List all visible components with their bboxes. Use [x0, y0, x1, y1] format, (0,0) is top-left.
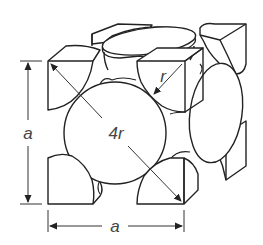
- label-a-horizontal: a: [110, 217, 119, 236]
- label-4r: 4r: [108, 124, 124, 143]
- label-a-vertical: a: [23, 124, 32, 143]
- vertical-dimension: a: [20, 61, 42, 204]
- horizontal-dimension: a: [48, 210, 184, 236]
- fcc-unit-cell-diagram: 4r r a a: [0, 0, 263, 245]
